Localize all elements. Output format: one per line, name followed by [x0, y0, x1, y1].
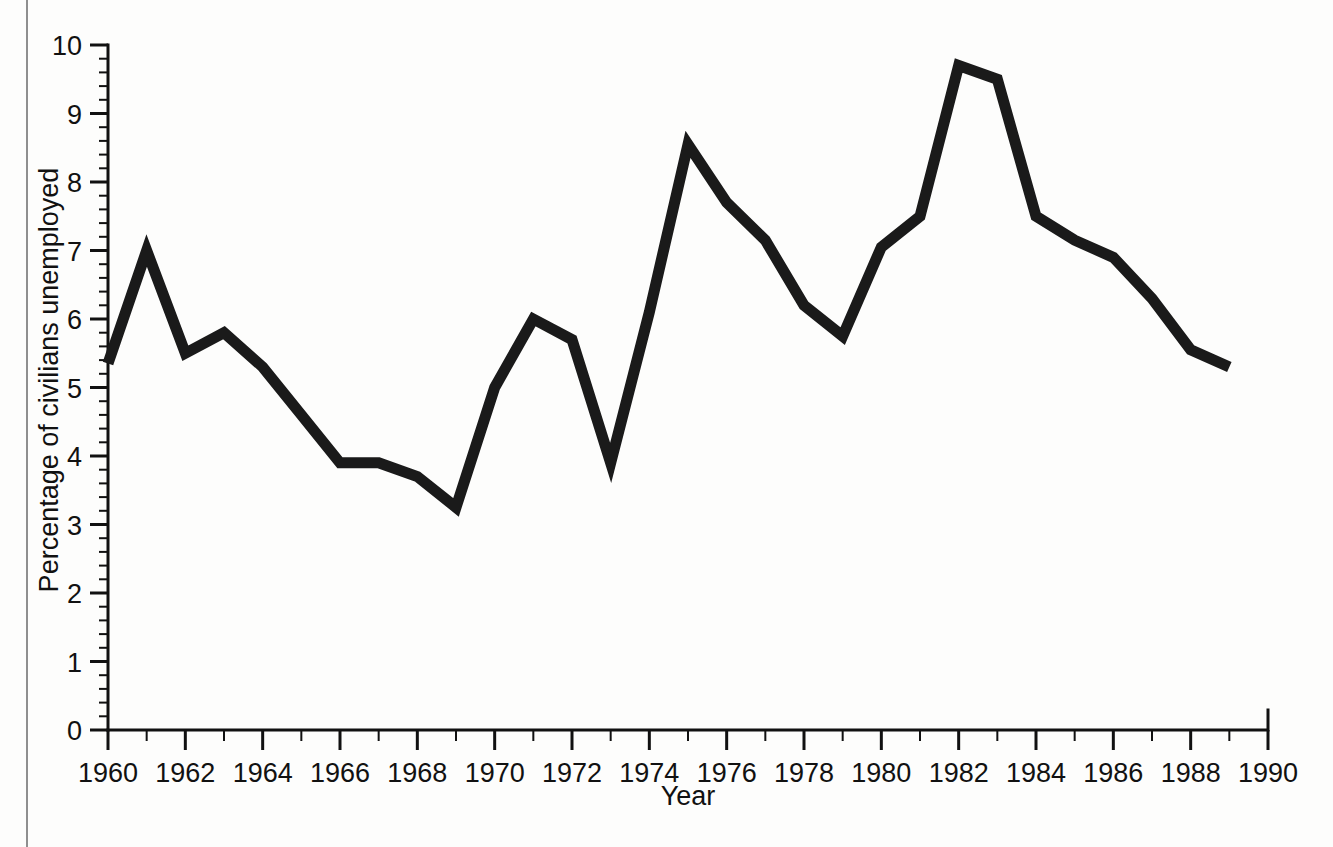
y-tick-label: 5	[67, 374, 82, 404]
x-tick-label: 1990	[1238, 758, 1298, 788]
x-tick-label: 1962	[155, 758, 215, 788]
line-chart: 012345678910 196019621964196619681970197…	[0, 0, 1333, 847]
y-tick-label: 1	[67, 648, 82, 678]
y-tick-label: 7	[67, 237, 82, 267]
x-tick-label: 1968	[387, 758, 447, 788]
y-axis-title: Percentage of civilians unemployed	[34, 168, 64, 593]
x-tick-label: 1986	[1083, 758, 1143, 788]
x-tick-label: 1988	[1161, 758, 1221, 788]
x-tick-label: 1966	[310, 758, 370, 788]
y-tick-label: 6	[67, 305, 82, 335]
x-axis-title: Year	[661, 781, 716, 811]
y-tick-label: 9	[67, 100, 82, 130]
y-tick-label: 4	[67, 442, 82, 472]
x-tick-label: 1980	[851, 758, 911, 788]
x-axis-ticks	[108, 730, 1268, 750]
x-tick-label: 1960	[78, 758, 138, 788]
x-tick-label: 1978	[774, 758, 834, 788]
x-axis-line	[108, 710, 1268, 730]
chart-svg: 012345678910 196019621964196619681970197…	[0, 0, 1333, 847]
x-tick-label: 1964	[233, 758, 293, 788]
y-tick-label: 8	[67, 168, 82, 198]
y-tick-label: 2	[67, 579, 82, 609]
page-canvas: 012345678910 196019621964196619681970197…	[0, 0, 1333, 847]
unemployment-series-line	[108, 66, 1229, 508]
x-tick-label: 1984	[1006, 758, 1066, 788]
y-tick-label: 0	[67, 716, 82, 746]
x-tick-label: 1970	[465, 758, 525, 788]
x-tick-label: 1972	[542, 758, 602, 788]
y-axis-ticks	[90, 45, 108, 730]
x-tick-label: 1982	[929, 758, 989, 788]
y-tick-label: 10	[52, 31, 82, 61]
y-tick-label: 3	[67, 511, 82, 541]
